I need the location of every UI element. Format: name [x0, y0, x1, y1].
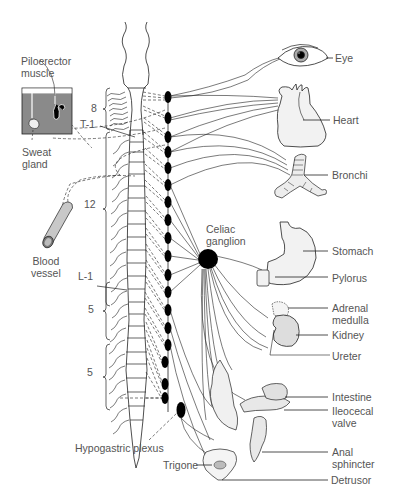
- label-lumbar-5: 5: [88, 303, 94, 315]
- label-intestine: Intestine: [332, 391, 372, 403]
- label-cervical-8: 8: [91, 102, 97, 114]
- bronchi-organ: [275, 154, 328, 198]
- eye-organ: [278, 44, 333, 66]
- label-t1: T-1: [80, 118, 95, 130]
- label-ureter: Ureter: [332, 350, 361, 362]
- label-adrenal-medulla: Adrenal medulla: [332, 302, 369, 326]
- label-anal-sphincter: Anal sphincter: [332, 446, 375, 470]
- label-stomach: Stomach: [332, 245, 373, 257]
- label-sweat-gland: Sweat gland: [22, 146, 51, 170]
- label-detrusor: Detrusor: [331, 474, 371, 486]
- label-trigone: Trigone: [163, 459, 198, 471]
- label-thoracic-12: 12: [84, 198, 96, 210]
- label-piloerector: Piloerector muscle: [21, 55, 71, 79]
- kidney-organ: [270, 302, 330, 355]
- stomach-organ: [257, 222, 328, 286]
- label-hypogastric-plexus: Hypogastric plexus: [75, 442, 164, 454]
- label-sacral-5: 5: [87, 366, 93, 378]
- intestine-organ: [210, 360, 328, 430]
- label-ileocecal-valve: Ileocecal valve: [332, 405, 373, 429]
- label-eye: Eye: [335, 52, 353, 64]
- label-bronchi: Bronchi: [332, 169, 368, 181]
- label-celiac-ganglion: Celiac ganglion: [206, 223, 246, 247]
- blood-vessel: [41, 176, 135, 250]
- label-blood-vessel: Blood vessel: [31, 255, 61, 279]
- bladder-organ: [196, 449, 328, 480]
- anal-sphincter-organ: [250, 416, 328, 462]
- segment-braces: [97, 88, 135, 410]
- sympathetic-chain: [162, 91, 219, 418]
- label-kidney: Kidney: [332, 329, 364, 341]
- label-heart: Heart: [333, 114, 359, 126]
- label-pylorus: Pylorus: [332, 272, 367, 284]
- label-l1: L-1: [78, 270, 93, 282]
- heart-organ: [277, 84, 330, 147]
- spinal-cord: [107, 22, 149, 468]
